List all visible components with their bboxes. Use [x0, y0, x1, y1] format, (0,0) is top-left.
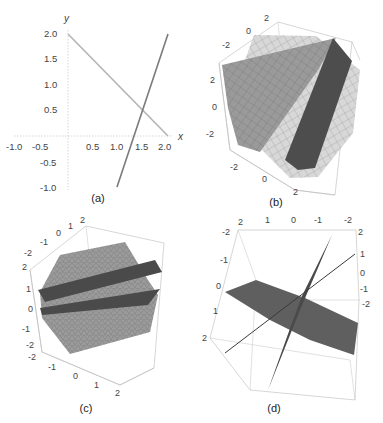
y-axis-label: y: [63, 13, 70, 24]
x-tick: 1.5: [135, 141, 148, 152]
tick-label: 0: [262, 174, 267, 184]
tick-label: 2: [22, 262, 27, 272]
line-series-2: [117, 34, 168, 187]
tick-label: 0: [360, 268, 365, 278]
y-tick: 0.5: [44, 104, 57, 115]
caption-c: (c): [66, 402, 106, 414]
tick-label: 2: [238, 217, 243, 227]
surface-plot-d: 2 1 0 -1 -2 -2 -1 0 1 2 2 1 0 -1 -2: [190, 210, 383, 423]
tick-label: 2: [210, 75, 215, 85]
tick-label: 2: [115, 388, 120, 398]
tick-label: -2: [26, 340, 34, 350]
tick-label: -2: [24, 248, 32, 258]
x-tick: 1.0: [110, 141, 123, 152]
tick-label: 2: [358, 227, 363, 237]
tick-label: 2: [80, 215, 85, 225]
tick-label: 0: [28, 304, 33, 314]
tick-label: -2: [222, 40, 230, 50]
panel-d: 2 1 0 -1 -2 -2 -1 0 1 2 2 1 0 -1 -2 (d): [190, 210, 383, 423]
tick-label: 1: [26, 284, 31, 294]
surface-plot-c: 2 1 0 -1 -2 2 1 0 -1 -2 -2 -1 0 1 2: [0, 210, 195, 423]
tick-label: 0: [212, 102, 217, 112]
tick-label: -2: [344, 215, 352, 225]
tick-label: 1: [94, 380, 99, 390]
line-series-1: [68, 34, 168, 136]
tick-label: -1: [220, 255, 228, 265]
tick-label: 1: [360, 249, 365, 259]
line-plot: x y -1.0 -0.5 0.5 1.0 1.5 2.0 2.0 1.5 1.…: [0, 0, 190, 210]
surface-plot-b: 2 0 -2 2 0 -2 -2 0 2: [190, 0, 383, 210]
y-tick: 1.5: [44, 53, 57, 64]
tick-label: -2: [222, 227, 230, 237]
y-tick: -1.0: [40, 182, 56, 193]
x-tick: 2.0: [158, 141, 171, 152]
tick-label: 0: [73, 371, 78, 381]
y-tick: 1.0: [44, 79, 57, 90]
x-tick: -1.0: [6, 141, 22, 152]
tick-label: -2: [362, 299, 370, 309]
tick-label: 0: [56, 228, 61, 238]
tick-label: -1: [314, 215, 322, 225]
tick-label: 0: [216, 281, 221, 291]
tick-label: -2: [206, 129, 214, 139]
tick-label: 0: [246, 26, 251, 36]
tick-label: -2: [28, 352, 36, 362]
tick-label: -1: [22, 324, 30, 334]
x-tick: 0.5: [86, 141, 99, 152]
tick-label: -2: [230, 162, 238, 172]
caption-a: (a): [78, 192, 118, 204]
tick-label: 1: [213, 306, 218, 316]
tick-label: 0: [291, 215, 296, 225]
y-tick: 2.0: [44, 28, 57, 39]
x-tick: -0.5: [32, 141, 48, 152]
caption-d: (d): [254, 402, 294, 414]
tick-label: -1: [40, 237, 48, 247]
tick-label: -1: [360, 284, 368, 294]
caption-b: (b): [256, 196, 296, 208]
panel-a: x y -1.0 -0.5 0.5 1.0 1.5 2.0 2.0 1.5 1.…: [0, 0, 190, 210]
tick-label: 1: [265, 215, 270, 225]
x-axis-label: x: [177, 131, 184, 142]
panel-c: 2 1 0 -1 -2 2 1 0 -1 -2 -2 -1 0 1 2 (c): [0, 210, 195, 423]
panel-b: 2 0 -2 2 0 -2 -2 0 2 (b): [190, 0, 383, 210]
y-tick: -0.5: [40, 157, 56, 168]
tick-label: -1: [48, 362, 56, 372]
tick-label: 2: [202, 333, 207, 343]
tick-label: 1: [68, 221, 73, 231]
tick-label: 2: [264, 13, 269, 23]
